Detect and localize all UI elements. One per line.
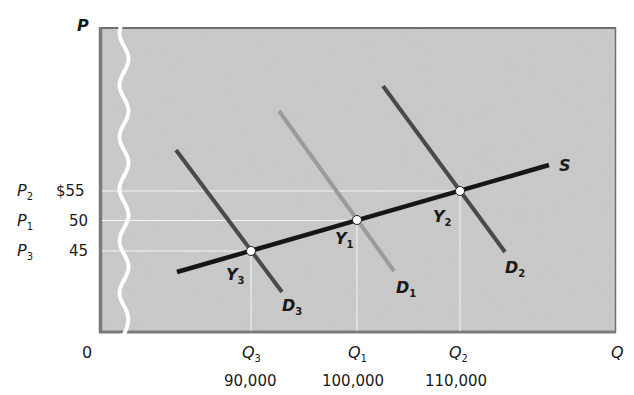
equilibrium-point-y2 [456, 187, 465, 196]
x-axis-title: Q [611, 345, 624, 361]
quantity-value-q1: 100,000 [322, 374, 384, 389]
price-value-p1: 50 [69, 214, 88, 229]
quantity-label-q3: Q3 [242, 345, 261, 361]
demand-label-d1: D1 [396, 280, 416, 296]
price-value-p2: $55 [56, 184, 85, 199]
point-label-y2: Y2 [433, 209, 452, 225]
quantity-value-q2: 110,000 [425, 374, 487, 389]
quantity-label-q1: Q1 [348, 345, 367, 361]
quantity-value-q3: 90,000 [224, 374, 277, 389]
price-value-p3: 45 [69, 244, 88, 259]
equilibrium-point-y3 [247, 247, 256, 256]
demand-label-d2: D2 [505, 260, 525, 276]
price-label-p2: P2 [17, 183, 33, 199]
point-label-y1: Y1 [335, 231, 354, 247]
price-label-p3: P3 [17, 243, 33, 259]
price-label-p1: P1 [17, 213, 33, 229]
supply-demand-diagram [0, 0, 634, 395]
point-label-y3: Y3 [226, 267, 245, 283]
origin-label: 0 [82, 345, 92, 361]
supply-label: S [559, 158, 571, 174]
demand-label-d3: D3 [282, 298, 302, 314]
equilibrium-point-y1 [353, 216, 362, 225]
quantity-label-q2: Q2 [449, 345, 468, 361]
y-axis-title: P [77, 18, 89, 34]
